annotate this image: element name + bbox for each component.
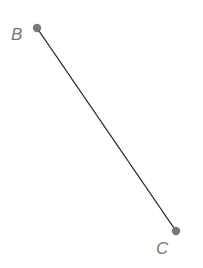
label-c: C bbox=[156, 239, 169, 258]
segment-bc bbox=[37, 28, 176, 231]
label-b: B bbox=[11, 25, 22, 44]
point-c[interactable] bbox=[172, 227, 180, 235]
point-b[interactable] bbox=[33, 24, 41, 32]
geometry-canvas: B C bbox=[0, 0, 203, 268]
